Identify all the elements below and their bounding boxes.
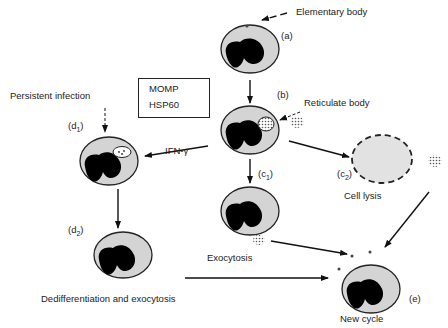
elementary-body-dot: [246, 25, 249, 28]
exocytosed-particle: [253, 235, 265, 245]
cell-lysis-label: Cell lysis: [344, 190, 381, 201]
cell-a: [221, 25, 279, 74]
node-c2-label: (c2): [337, 168, 352, 181]
aberrant-inclusion: [113, 147, 131, 158]
reticulate-body-inclusion: [258, 117, 274, 131]
hsp60-label: HSP60: [149, 99, 179, 110]
released-particle: [428, 155, 442, 167]
node-a-label: (a): [281, 30, 293, 41]
arrow-b-c2: [289, 141, 349, 157]
reticulate-body-label: Reticulate body: [304, 97, 369, 108]
exocytosis-label: Exocytosis: [207, 252, 252, 263]
cell-c1: [221, 187, 279, 235]
momp-label: MOMP: [149, 83, 179, 94]
cell-d1: [80, 137, 138, 185]
node-e-label: (e): [409, 293, 421, 304]
momp-hsp60-box: MOMP HSP60: [138, 78, 210, 118]
cell-b: [221, 106, 279, 154]
arrow-c2-e: [385, 192, 429, 247]
arrow-c1-e: [271, 241, 347, 254]
node-c1-label: (c1): [258, 168, 273, 181]
node-d1-label: (d1): [68, 120, 84, 133]
node-b-label: (b): [277, 89, 289, 100]
node-d2-label: (d2): [68, 224, 84, 237]
new-cycle-label: New cycle: [340, 313, 383, 324]
cell-e: [338, 251, 401, 314]
arrow-elementary-body: [262, 13, 287, 20]
cell-c2-lysed: [352, 135, 412, 183]
ifn-gamma-label: IFN-γ: [165, 145, 188, 156]
cell-d2: [94, 232, 152, 278]
persistent-infection-label: Persistent infection: [10, 90, 90, 101]
diagram-canvas: [0, 0, 448, 328]
dedifferentiation-label: Dedifferentiation and exocytosis: [41, 293, 176, 304]
reticulate-body-particle: [290, 116, 304, 128]
elementary-body-label: Elementary body: [296, 6, 367, 17]
